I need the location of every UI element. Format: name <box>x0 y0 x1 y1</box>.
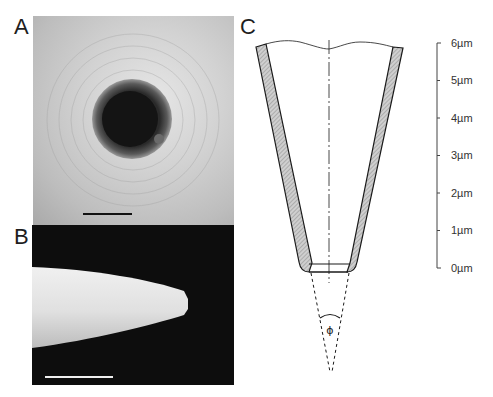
scale-label-5um: 5µm <box>451 74 473 86</box>
cone-extension-left <box>311 273 330 372</box>
scale-label-1um: 1µm <box>451 224 473 236</box>
break-line <box>266 41 393 49</box>
angle-arc <box>320 315 340 319</box>
left-wall-coating <box>256 44 312 272</box>
right-wall-coating <box>347 47 403 272</box>
tip-schematic: ϕ <box>0 0 493 397</box>
height-scale <box>437 43 441 268</box>
scale-label-6um: 6µm <box>451 37 473 49</box>
cone-extension-right <box>332 273 349 372</box>
angle-symbol: ϕ <box>326 324 333 337</box>
scale-label-0um: 0µm <box>451 262 473 274</box>
scale-label-3um: 3µm <box>451 149 473 161</box>
scale-label-4um: 4µm <box>451 112 473 124</box>
scale-label-2um: 2µm <box>451 187 473 199</box>
